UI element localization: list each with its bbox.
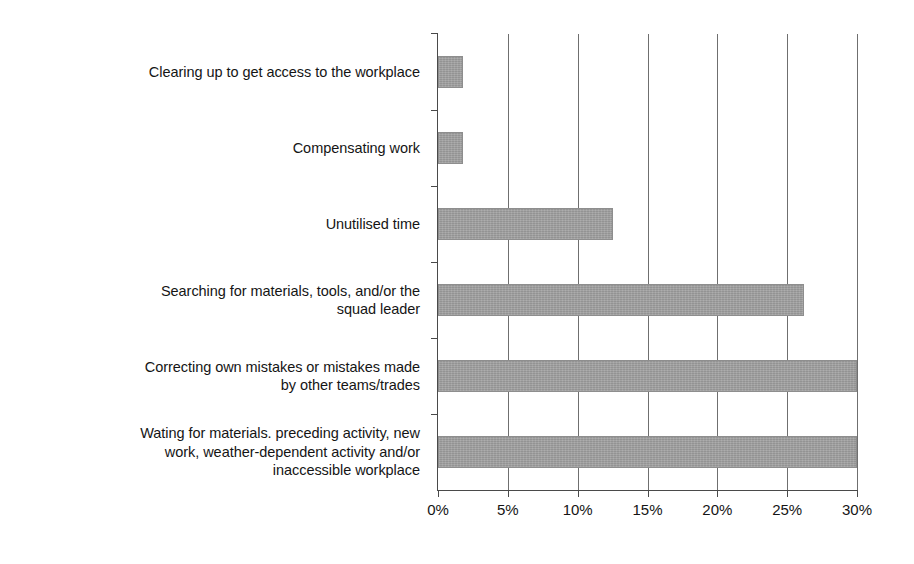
- x-axis-tick: [648, 490, 649, 497]
- x-axis-tick: [508, 490, 509, 497]
- x-axis-tick-label: 0%: [427, 501, 449, 518]
- bar: [438, 56, 463, 88]
- bar: [438, 208, 613, 240]
- gridline: [787, 34, 788, 490]
- y-axis-tick: [431, 110, 438, 111]
- x-axis-tick-label: 10%: [563, 501, 593, 518]
- bar-chart: Clearing up to get access to the workpla…: [0, 0, 914, 564]
- gridline: [857, 34, 858, 490]
- x-axis-tick-label: 20%: [702, 501, 732, 518]
- bar: [438, 360, 857, 392]
- x-axis-tick-label: 15%: [632, 501, 662, 518]
- x-axis-tick: [717, 490, 718, 497]
- y-axis-tick: [431, 414, 438, 415]
- x-axis-tick-label: 25%: [772, 501, 802, 518]
- category-label: Wating for materials. preceding activity…: [0, 414, 428, 490]
- bar: [438, 436, 857, 468]
- bar: [438, 284, 804, 316]
- x-axis-tick: [578, 490, 579, 497]
- x-axis-tick-label: 5%: [497, 501, 519, 518]
- category-label: Unutilised time: [0, 186, 428, 262]
- y-axis-tick: [431, 338, 438, 339]
- gridline: [648, 34, 649, 490]
- y-axis-tick: [431, 186, 438, 187]
- y-axis-tick: [431, 262, 438, 263]
- category-label: Compensating work: [0, 110, 428, 186]
- bar: [438, 132, 463, 164]
- x-axis-tick: [787, 490, 788, 497]
- plot-area: 0%5%10%15%20%25%30%: [438, 34, 857, 490]
- x-axis-tick: [857, 490, 858, 497]
- category-label: Searching for materials, tools, and/or t…: [0, 262, 428, 338]
- category-label-column: Clearing up to get access to the workpla…: [0, 34, 428, 490]
- y-axis-top-cap: [431, 33, 438, 34]
- x-axis-tick-label: 30%: [842, 501, 872, 518]
- gridline: [578, 34, 579, 490]
- category-label: Correcting own mistakes or mistakes made…: [0, 338, 428, 414]
- gridline: [717, 34, 718, 490]
- category-label: Clearing up to get access to the workpla…: [0, 34, 428, 110]
- x-axis-tick: [438, 490, 439, 497]
- gridline: [508, 34, 509, 490]
